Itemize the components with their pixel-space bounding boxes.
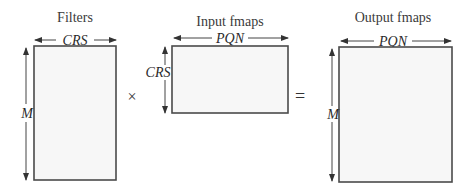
multiply-operator: × bbox=[127, 88, 136, 105]
filters-matrix: Filters CRS M bbox=[20, 10, 116, 180]
output-fmaps-matrix: Output fmaps PQN M bbox=[326, 10, 452, 182]
output-fmaps-box bbox=[339, 47, 452, 182]
filters-title: Filters bbox=[57, 10, 93, 25]
output-fmaps-title: Output fmaps bbox=[355, 10, 432, 25]
input-height-label: CRS bbox=[146, 65, 171, 80]
input-fmaps-box bbox=[172, 46, 288, 113]
matrix-multiplication-diagram: Filters CRS M × Input fmaps PQN CRS = Ou… bbox=[0, 0, 472, 190]
input-width-label: PQN bbox=[215, 31, 245, 46]
equals-operator: = bbox=[295, 86, 305, 106]
input-fmaps-title: Input fmaps bbox=[196, 14, 263, 29]
filters-height-label: M bbox=[20, 106, 34, 121]
filters-box bbox=[34, 46, 116, 180]
output-height-label: M bbox=[326, 107, 340, 122]
input-fmaps-matrix: Input fmaps PQN CRS bbox=[146, 14, 288, 113]
